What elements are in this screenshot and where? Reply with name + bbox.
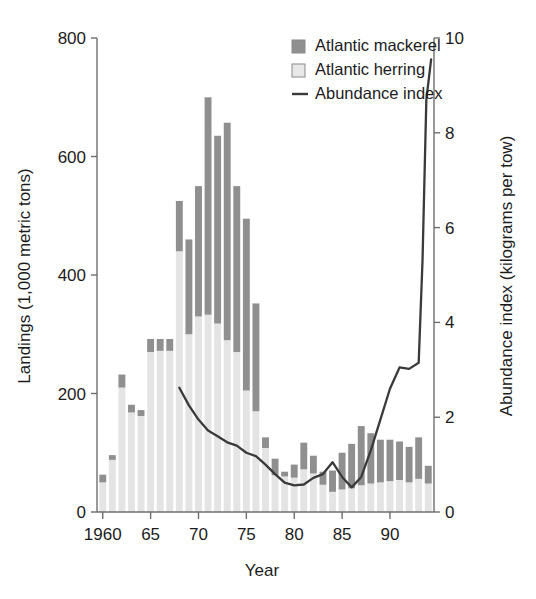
legend-item-label: Abundance index bbox=[315, 84, 443, 102]
bar-segment bbox=[425, 466, 432, 484]
y-axis-right-tick-label: 4 bbox=[445, 313, 454, 332]
bar-segment bbox=[138, 416, 145, 512]
x-axis-tick-label: 75 bbox=[237, 525, 256, 544]
chart-figure: 0200400600800 0246810 1960657075808590 L… bbox=[0, 0, 536, 599]
bar-segment bbox=[128, 405, 135, 413]
bar-segment bbox=[166, 351, 173, 512]
bar-segment bbox=[252, 411, 259, 512]
bar-segment bbox=[377, 440, 384, 483]
y-axis-right-tick-label: 10 bbox=[445, 29, 464, 48]
y-axis-right-tick-label: 2 bbox=[445, 408, 454, 427]
y-axis-left-tick-label: 800 bbox=[58, 29, 86, 48]
bar-segment bbox=[406, 482, 413, 512]
bar-segment bbox=[291, 478, 298, 512]
y-axis-right-title: Abundance index (kilograms per tow) bbox=[497, 136, 516, 417]
bar-segment bbox=[205, 315, 212, 512]
y-axis-left-tick-label: 0 bbox=[77, 503, 86, 522]
bar-segment bbox=[406, 447, 413, 483]
bar-segment bbox=[157, 351, 164, 512]
bar-segment bbox=[118, 388, 125, 512]
bar-segment bbox=[147, 339, 154, 352]
x-axis-title: Year bbox=[245, 561, 280, 580]
legend-item-label: Atlantic mackerel bbox=[315, 36, 441, 54]
bar-segment bbox=[339, 489, 346, 512]
x-axis-tick-label: 70 bbox=[189, 525, 208, 544]
bar-segment bbox=[300, 443, 307, 470]
chart-legend: Atlantic mackerelAtlantic herringAbundan… bbox=[292, 36, 443, 102]
bar-segment bbox=[147, 352, 154, 512]
bar-segment bbox=[128, 412, 135, 512]
bar-segment bbox=[243, 219, 250, 391]
legend-color-swatch bbox=[292, 64, 305, 77]
y-axis-left-tick-label: 600 bbox=[58, 148, 86, 167]
bar-segment bbox=[157, 339, 164, 351]
bar-segment bbox=[214, 136, 221, 324]
bar-segment bbox=[367, 484, 374, 512]
bar-segment bbox=[195, 186, 202, 316]
bar-segment bbox=[99, 475, 106, 483]
bar-segment bbox=[348, 488, 355, 512]
bar-segment bbox=[358, 485, 365, 512]
bar-segment bbox=[310, 456, 317, 474]
bar-segment bbox=[185, 239, 192, 334]
bar-segment bbox=[387, 440, 394, 481]
legend-item-label: Atlantic herring bbox=[315, 60, 425, 78]
bar-segment bbox=[396, 441, 403, 480]
y-axis-left-tick-label: 200 bbox=[58, 385, 86, 404]
bar-segment bbox=[233, 186, 240, 352]
bar-segment bbox=[396, 480, 403, 512]
x-axis-tick-label: 85 bbox=[333, 525, 352, 544]
y-axis-left-title: Landings (1,000 metric tons) bbox=[15, 168, 34, 383]
bar-segment bbox=[224, 340, 231, 512]
bar-segment bbox=[425, 484, 432, 512]
bar-segment bbox=[233, 352, 240, 512]
bar-segment bbox=[320, 485, 327, 512]
legend-item: Atlantic mackerel bbox=[292, 36, 441, 54]
bar-segment bbox=[415, 437, 422, 478]
bar-segment bbox=[118, 375, 125, 388]
bar-segment bbox=[252, 303, 259, 411]
bar-segment bbox=[214, 324, 221, 512]
bar-segment bbox=[300, 469, 307, 512]
bar-segment bbox=[281, 472, 288, 477]
y-axis-right-tick-label: 8 bbox=[445, 124, 454, 143]
bar-segment bbox=[387, 481, 394, 512]
y-axis-right-tick-label: 6 bbox=[445, 219, 454, 238]
x-axis-tick-label: 90 bbox=[380, 525, 399, 544]
bar-segment bbox=[415, 479, 422, 512]
bar-segment bbox=[224, 123, 231, 340]
x-axis-tick-label: 80 bbox=[285, 525, 304, 544]
legend-item: Abundance index bbox=[292, 84, 443, 102]
bar-segment bbox=[166, 339, 173, 351]
chart-svg: 0200400600800 0246810 1960657075808590 L… bbox=[0, 0, 536, 599]
bar-segment bbox=[176, 201, 183, 251]
bar-segment bbox=[291, 465, 298, 478]
bar-segment bbox=[329, 492, 336, 512]
y-axis-right-tick-label: 0 bbox=[445, 503, 454, 522]
x-axis-tick-label: 65 bbox=[141, 525, 160, 544]
bar-segment bbox=[262, 437, 269, 448]
bar-segment bbox=[272, 475, 279, 512]
bar-segment bbox=[329, 471, 336, 492]
x-axis-tick-label: 1960 bbox=[84, 525, 122, 544]
bar-segment bbox=[185, 334, 192, 512]
bar-segment bbox=[262, 448, 269, 512]
bar-segment bbox=[138, 410, 145, 416]
y-axis-left-tick-label: 400 bbox=[58, 266, 86, 285]
bar-segment bbox=[99, 482, 106, 512]
bar-segment bbox=[109, 455, 116, 460]
bar-segment bbox=[377, 482, 384, 512]
bar-segment bbox=[109, 460, 116, 512]
legend-color-swatch bbox=[292, 40, 305, 53]
bar-segment bbox=[348, 444, 355, 488]
bar-segment bbox=[205, 97, 212, 314]
bar-segment bbox=[176, 251, 183, 512]
